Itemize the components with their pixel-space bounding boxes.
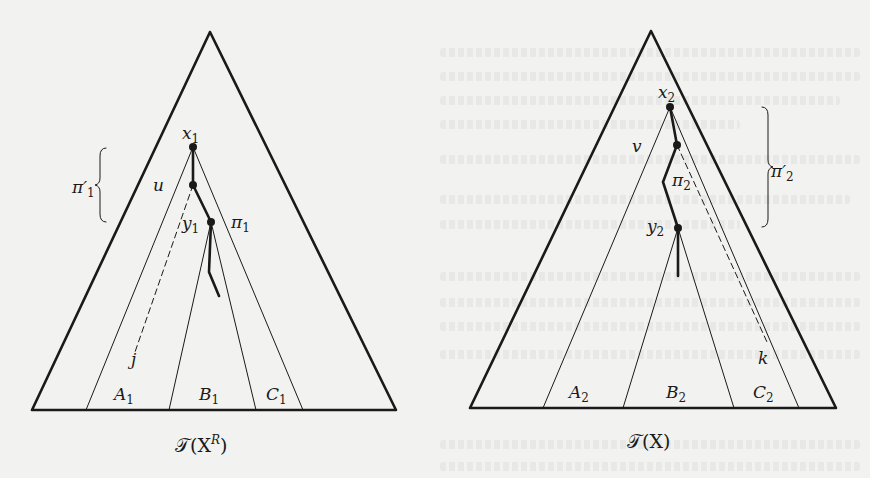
label-pi1: π1 [230, 212, 250, 235]
right-tree-caption: 𝒯(X) [627, 430, 670, 452]
region-B1: B1 [198, 384, 219, 407]
node-y2-dot [674, 224, 682, 232]
right-inner-edge-right [678, 228, 734, 408]
label-j: j [127, 349, 137, 369]
right-subtree-edge-left [543, 107, 670, 408]
left-brace-pi1-prime [95, 148, 106, 222]
label-x1: x1 [182, 123, 199, 146]
node-y1-dot [207, 218, 215, 226]
label-y2: y2 [646, 216, 664, 239]
label-pi2-prime: π′2 [770, 161, 794, 184]
label-pi2: π2 [671, 170, 691, 193]
region-C2: C2 [753, 382, 774, 405]
right-path-pi2 [663, 107, 678, 276]
node-v-dot [673, 141, 681, 149]
left-tree-caption: 𝒯(XR) [175, 433, 227, 456]
region-B2: B2 [665, 382, 686, 405]
region-C1: C1 [266, 384, 287, 407]
label-v: v [632, 136, 642, 156]
region-A2: A2 [567, 382, 589, 405]
label-u: u [153, 175, 164, 195]
tree-comparison-figure: x1 u y1 π1 π′1 j A1 B1 C1 𝒯(XR) x2 v π2 … [0, 0, 870, 478]
left-inner-edge-right [211, 222, 256, 410]
label-k: k [758, 348, 768, 368]
label-y1: y1 [181, 213, 199, 236]
node-u-dot [189, 181, 197, 189]
left-subtree-edge-left [86, 147, 193, 410]
label-x2: x2 [658, 82, 675, 105]
right-subtree-edge-right [670, 107, 799, 408]
left-inner-edge-left [169, 222, 211, 410]
right-inner-edge-left [623, 228, 678, 408]
region-A1: A1 [112, 384, 134, 407]
label-pi1-prime: π′1 [71, 177, 95, 200]
